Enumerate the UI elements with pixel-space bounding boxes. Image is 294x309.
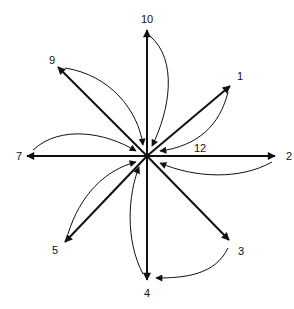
label-7: 7 [16, 150, 22, 162]
label-2: 2 [286, 150, 292, 162]
label-5: 5 [52, 244, 58, 256]
spoke-arrow-3 [147, 156, 229, 240]
label-1: 1 [237, 70, 243, 82]
spoke-arrow-1 [147, 86, 230, 156]
spoke-arrow-5 [65, 156, 147, 242]
curved-arrow-7-to-center [33, 134, 136, 151]
curved-arrow-4-to-center [130, 167, 143, 274]
spoke-arrows [27, 30, 275, 280]
label-12: 12 [194, 142, 206, 154]
curved-arrow-2-to-center [160, 162, 272, 175]
label-10: 10 [141, 13, 153, 25]
label-4: 4 [144, 287, 150, 299]
curved-arrow-3-to-4 [156, 248, 228, 278]
label-9: 9 [49, 54, 55, 66]
spoke-arrow-9 [58, 67, 147, 156]
curved-arrow-10-to-center [150, 36, 168, 146]
diagram-canvas: 10123457912 [0, 0, 294, 309]
label-3: 3 [238, 245, 244, 257]
radial-arrow-diagram: 10123457912 [0, 0, 294, 309]
curved-arrow-5-to-center [68, 162, 136, 234]
